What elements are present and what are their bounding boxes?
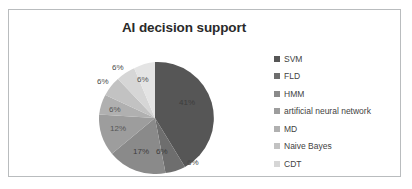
legend: SVM FLD HMM artificial neural network MD… [274, 50, 402, 173]
legend-item-naive-bayes[interactable]: Naive Bayes [274, 138, 402, 156]
legend-label: SVM [284, 55, 302, 64]
legend-swatch-icon [274, 73, 280, 79]
pie-label-ann: 12% [110, 124, 126, 133]
pie-chart [87, 48, 219, 174]
legend-item-fld[interactable]: FLD [274, 68, 402, 86]
pie-label-hmm-neighbor: 6% [156, 147, 168, 156]
legend-label: artificial neural network [284, 107, 371, 116]
pie-label-cdt: 6% [112, 63, 124, 72]
legend-swatch-icon [274, 108, 280, 114]
pie-label-top-inner: 6% [137, 75, 149, 84]
legend-label: Naive Bayes [284, 142, 332, 151]
legend-swatch-icon [274, 161, 280, 167]
pie-label-svm: 41% [179, 98, 195, 107]
pie-label-hmm: 17% [133, 147, 149, 156]
pie-chart-plot-area: 41% 6% 6% 17% 12% 6% 6% 6% 6% SVM FLD HM… [9, 10, 402, 178]
legend-label: MD [284, 125, 297, 134]
legend-item-md[interactable]: MD [274, 120, 402, 138]
legend-swatch-icon [274, 91, 280, 97]
legend-item-cdt[interactable]: CDT [274, 155, 402, 173]
legend-item-svm[interactable]: SVM [274, 50, 402, 68]
legend-swatch-icon [274, 56, 280, 62]
chart-frame: AI decision support 41 [8, 9, 401, 177]
legend-label: FLD [284, 72, 300, 81]
legend-item-artificial-neural-network[interactable]: artificial neural network [274, 103, 402, 121]
pie-label-md: 6% [109, 105, 121, 114]
legend-swatch-icon [274, 126, 280, 132]
legend-label: CDT [284, 160, 301, 169]
pie-label-fld: 6% [187, 158, 199, 167]
pie-label-naive-bayes: 6% [97, 77, 109, 86]
legend-item-hmm[interactable]: HMM [274, 85, 402, 103]
legend-swatch-icon [274, 143, 280, 149]
legend-label: HMM [284, 90, 304, 99]
